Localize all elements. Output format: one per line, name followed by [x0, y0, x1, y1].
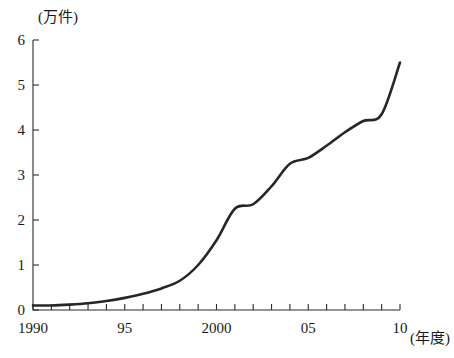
y-tick-label: 1	[18, 257, 26, 273]
y-axis-tick-labels: 0123456	[18, 32, 26, 318]
axes-group	[33, 40, 400, 310]
y-tick-label: 5	[18, 77, 26, 93]
y-axis-unit-label: (万件)	[38, 9, 78, 26]
line-chart: 0123456 19909520000510 (万件) (年度)	[0, 0, 454, 358]
y-tick-label: 2	[18, 212, 26, 228]
chart-axes	[33, 40, 400, 310]
x-tick-label: 05	[301, 320, 316, 336]
y-axis-tick-marks	[33, 40, 39, 310]
y-tick-label: 3	[18, 167, 26, 183]
chart-canvas: 0123456 19909520000510 (万件) (年度)	[0, 0, 454, 358]
y-tick-label: 4	[18, 122, 26, 138]
x-tick-label: 2000	[202, 320, 232, 336]
x-tick-label: 10	[393, 320, 408, 336]
y-tick-label: 0	[18, 302, 26, 318]
y-tick-label: 6	[18, 32, 26, 48]
data-series-line	[33, 63, 400, 306]
x-axis-tick-marks	[33, 304, 400, 310]
x-axis-unit-label: (年度)	[410, 330, 450, 347]
x-tick-label: 1990	[18, 320, 48, 336]
x-tick-label: 95	[117, 320, 132, 336]
x-axis-tick-labels: 19909520000510	[18, 320, 408, 336]
